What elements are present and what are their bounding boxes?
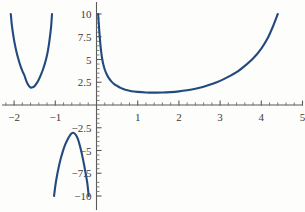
y-tick-label: 5 bbox=[86, 54, 92, 66]
plot-figure: −2−112345−10−7.5−5−2.52.557.510 bbox=[0, 0, 305, 212]
axes-group bbox=[2, 2, 303, 210]
y-tick-label: 2.5 bbox=[78, 76, 92, 88]
x-tick-label: 1 bbox=[135, 111, 141, 123]
x-tick-label: −1 bbox=[49, 111, 61, 123]
y-tick-label: −7.5 bbox=[72, 167, 92, 179]
x-tick-label: 2 bbox=[176, 111, 182, 123]
x-tick-label: 4 bbox=[259, 111, 265, 123]
y-tick-label: −2.5 bbox=[72, 122, 92, 134]
x-tick-label: 5 bbox=[300, 111, 305, 123]
curve-left-branch bbox=[11, 14, 52, 88]
plot-canvas: −2−112345−10−7.5−5−2.52.557.510 bbox=[0, 0, 305, 212]
x-tick-label: 3 bbox=[217, 111, 223, 123]
curve-right-branch bbox=[98, 14, 278, 93]
y-tick-label: 10 bbox=[81, 8, 93, 20]
x-tick-label: −2 bbox=[8, 111, 20, 123]
curve-bottom-branch bbox=[54, 133, 89, 196]
y-tick-label: 7.5 bbox=[78, 31, 92, 43]
